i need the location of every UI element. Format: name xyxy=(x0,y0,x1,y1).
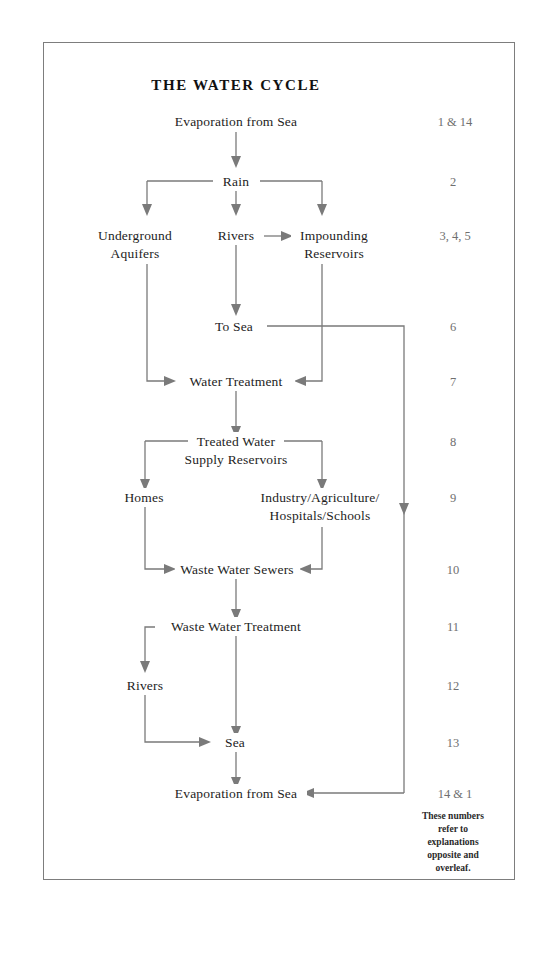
node-evaporation-bottom: Evaporation from Sea xyxy=(175,786,297,801)
step-number: 1 & 14 xyxy=(438,115,473,129)
node-homes: Homes xyxy=(124,490,163,505)
arrowhead-icon xyxy=(317,204,327,216)
page-canvas: THE WATER CYCLE xyxy=(0,0,546,953)
arrowhead-icon xyxy=(142,204,152,216)
arrowhead-icon xyxy=(231,304,241,316)
node-rain: Rain xyxy=(223,174,249,189)
arrowhead-icon xyxy=(164,564,176,574)
step-number: 11 xyxy=(447,620,459,634)
step-number: 3, 4, 5 xyxy=(439,229,470,243)
node-impounding-line2: Reservoirs xyxy=(304,246,364,261)
node-waste-water-sewers: Waste Water Sewers xyxy=(180,562,294,577)
arrowhead-icon xyxy=(399,503,409,515)
step-number: 2 xyxy=(450,175,456,189)
step-number: 7 xyxy=(450,375,456,389)
step-number: 14 & 1 xyxy=(438,787,473,801)
node-industry-line2: Hospitals/Schools xyxy=(270,508,371,523)
arrowhead-icon xyxy=(231,204,241,216)
footnote-line: opposite and xyxy=(427,850,479,860)
edge-impounding-to-treatment xyxy=(305,264,322,381)
node-to-sea: To Sea xyxy=(215,319,253,334)
node-underground-aquifers-line2: Aquifers xyxy=(111,246,160,261)
node-underground-aquifers-line1: Underground xyxy=(98,228,172,243)
node-water-treatment: Water Treatment xyxy=(189,374,282,389)
node-sea: Sea xyxy=(225,735,245,750)
step-number: 8 xyxy=(450,435,456,449)
footnote-line: explanations xyxy=(427,837,479,847)
arrowhead-icon xyxy=(199,737,211,747)
node-rivers-top: Rivers xyxy=(218,228,254,243)
arrowhead-icon xyxy=(140,661,150,673)
edge-tosea-return-line xyxy=(266,326,404,793)
step-number: 10 xyxy=(447,563,460,577)
footnote-line: overleaf. xyxy=(435,863,470,873)
arrowhead-icon xyxy=(299,564,311,574)
arrowhead-icon xyxy=(294,376,306,386)
water-cycle-diagram: THE WATER CYCLE xyxy=(0,0,546,953)
footnote-block: These numbers refer to explanations oppo… xyxy=(422,811,484,873)
node-rivers-bottom: Rivers xyxy=(127,678,163,693)
step-number-column: 1 & 14 2 3, 4, 5 6 7 8 9 10 11 12 13 14 … xyxy=(438,115,473,801)
node-evaporation-top: Evaporation from Sea xyxy=(175,114,297,129)
node-treated-water-line2: Supply Reservoirs xyxy=(185,452,288,467)
footnote-line: refer to xyxy=(438,824,468,834)
node-impounding-line1: Impounding xyxy=(300,228,368,243)
edge-industry-to-sewers xyxy=(310,527,322,569)
step-number: 12 xyxy=(447,679,460,693)
step-number: 9 xyxy=(450,491,456,505)
edge-rivers-to-sea xyxy=(145,690,200,742)
step-number: 6 xyxy=(450,320,456,334)
diagram-node-labels: Evaporation from Sea Rain Underground Aq… xyxy=(88,112,394,804)
node-waste-water-treatment: Waste Water Treatment xyxy=(171,619,301,634)
node-treated-water-line1: Treated Water xyxy=(197,434,276,449)
footnote-line: These numbers xyxy=(422,811,484,821)
edge-aquifers-to-treatment xyxy=(147,264,165,381)
arrowhead-icon xyxy=(231,156,241,168)
node-industry-line1: Industry/Agriculture/ xyxy=(261,490,380,505)
edge-wwtreatment-to-rivers xyxy=(145,627,155,662)
edge-homes-to-sewers xyxy=(145,502,165,569)
step-number: 13 xyxy=(447,736,460,750)
page-title: THE WATER CYCLE xyxy=(151,77,320,93)
arrowhead-icon xyxy=(164,376,176,386)
